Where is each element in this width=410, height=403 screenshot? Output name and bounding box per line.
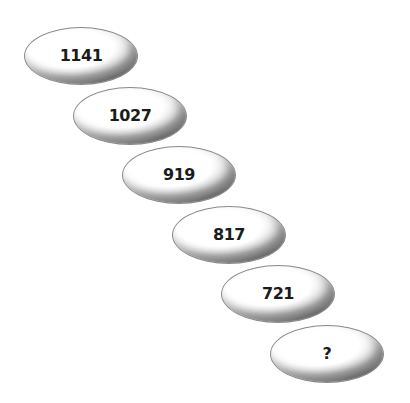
sequence-value: 919 xyxy=(163,165,195,184)
unknown-value: ? xyxy=(323,344,332,363)
sequence-oval-unknown: ? xyxy=(270,325,384,383)
sequence-oval-1: 1141 xyxy=(24,27,138,85)
sequence-oval-5: 721 xyxy=(221,265,335,323)
sequence-value: 721 xyxy=(262,284,294,303)
sequence-oval-3: 919 xyxy=(122,146,236,204)
sequence-oval-2: 1027 xyxy=(73,87,187,145)
sequence-oval-4: 817 xyxy=(172,206,286,264)
sequence-value: 817 xyxy=(213,225,245,244)
sequence-value: 1141 xyxy=(60,46,103,65)
sequence-value: 1027 xyxy=(109,106,152,125)
